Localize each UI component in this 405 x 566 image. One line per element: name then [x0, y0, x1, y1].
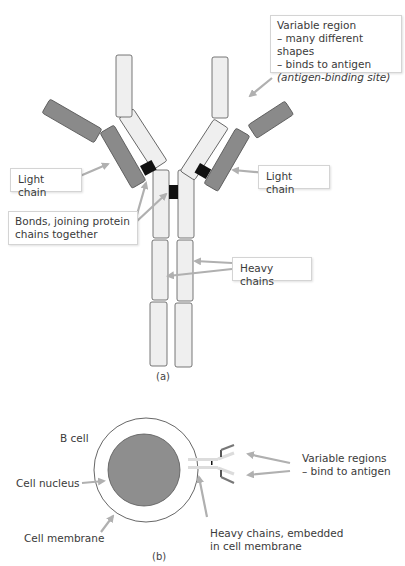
cell-membrane-label: Cell membrane [24, 532, 104, 545]
cell-nucleus-shape [108, 434, 180, 506]
bonds-label-line2: chains together [15, 228, 131, 241]
variable-regions-line1: Variable regions [302, 452, 391, 465]
variable-region-desc-binds: – binds to antigen [277, 58, 395, 71]
light-chain-right-label: Light chain [258, 165, 330, 189]
bonds-label: Bonds, joining protein chains together [8, 211, 138, 245]
panel-a-caption: (a) [156, 371, 170, 382]
heavy-chain-right-stem [175, 170, 194, 367]
arrows-panel-a [80, 78, 272, 276]
cell-nucleus-label: Cell nucleus [16, 477, 80, 490]
variable-region-title: Variable region [277, 19, 395, 32]
heavy-chains-embedded-line2: in cell membrane [210, 540, 343, 553]
variable-regions-label: Variable regions – bind to antigen [302, 452, 391, 478]
variable-region-desc-site: (antigen-binding site) [277, 71, 395, 84]
variable-region-label: Variable region – many different shapes … [270, 15, 402, 73]
panel-b-caption: (b) [152, 551, 166, 562]
heavy-chains-embedded-line1: Heavy chains, embedded [210, 527, 343, 540]
disulfide-bonds [140, 160, 211, 199]
heavy-chains-embedded-label: Heavy chains, embedded in cell membrane [210, 527, 343, 553]
variable-region-desc-shapes: – many different shapes [277, 32, 395, 58]
light-chain-left-label: Light chain [10, 168, 82, 192]
variable-regions-line2: – bind to antigen [302, 465, 391, 478]
b-cell-label: B cell [60, 432, 89, 445]
bonds-label-line1: Bonds, joining protein [15, 215, 131, 228]
heavy-chains-label: Heavy chains [232, 257, 312, 281]
antibody-diagram: Variable region – many different shapes … [0, 0, 405, 566]
b-cell [94, 418, 198, 522]
